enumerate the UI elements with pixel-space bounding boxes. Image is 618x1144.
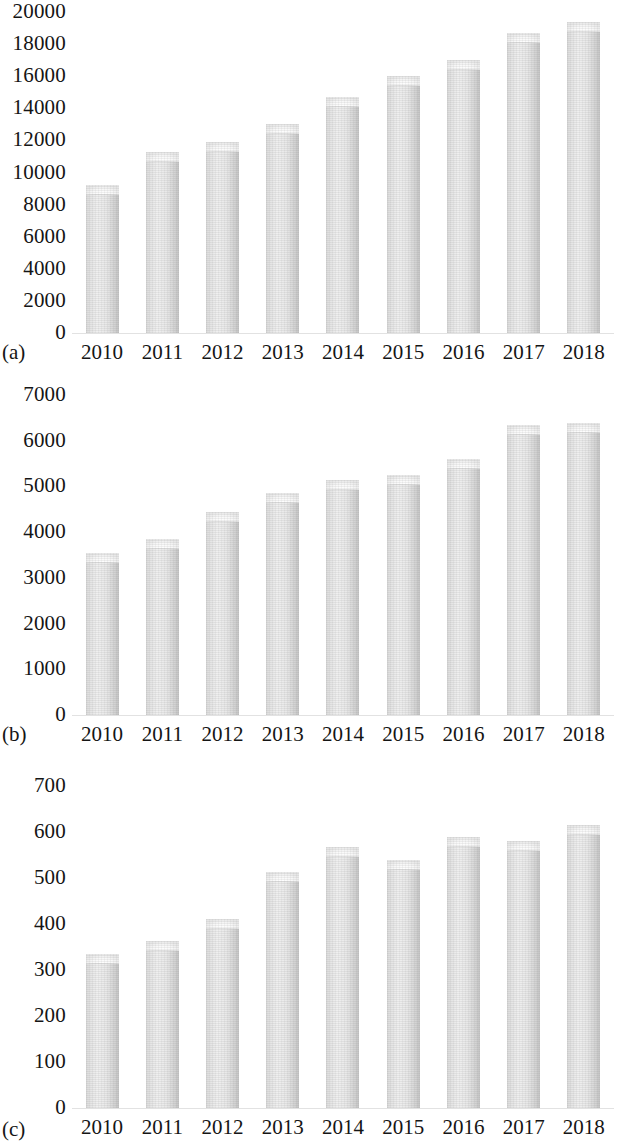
y-tick-label: 5000 (23, 475, 66, 496)
x-tick-label: 2017 (494, 341, 554, 364)
x-tick-label: 2010 (72, 723, 132, 746)
bar-slot (313, 395, 373, 715)
y-tick-label: 4000 (23, 258, 66, 279)
bar (507, 33, 540, 333)
x-axis-labels-c: 201020112012201320142015201620172018 (72, 1116, 614, 1139)
x-axis-line-a (72, 333, 614, 334)
x-tick-label: 2016 (433, 1116, 493, 1139)
bar (507, 841, 540, 1108)
x-tick-label: 2013 (253, 723, 313, 746)
bar (326, 480, 359, 715)
plot-area-b: 01000200030004000500060007000 2010201120… (0, 372, 618, 756)
bar (387, 860, 420, 1108)
bar-slot (554, 786, 614, 1108)
x-tick-label: 2014 (313, 341, 373, 364)
y-tick-label: 2000 (23, 613, 66, 634)
x-tick-label: 2017 (494, 723, 554, 746)
bar-slot (373, 12, 433, 333)
y-tick-label: 18000 (13, 33, 67, 54)
y-tick-label: 500 (34, 867, 66, 888)
bar-slot (494, 395, 554, 715)
y-tick-label: 4000 (23, 521, 66, 542)
y-tick-label: 400 (34, 913, 66, 934)
x-tick-label: 2015 (373, 1116, 433, 1139)
bar-slot (132, 12, 192, 333)
x-tick-label: 2016 (433, 341, 493, 364)
x-tick-label: 2014 (313, 723, 373, 746)
panel-tag-c: (c) (2, 1118, 25, 1141)
bar-slot (494, 786, 554, 1108)
chart-panel-a: 0200040006000800010000120001400016000180… (0, 0, 618, 372)
x-tick-label: 2016 (433, 723, 493, 746)
bar-group-b (72, 395, 614, 715)
bar-slot (72, 786, 132, 1108)
bar-slot (253, 395, 313, 715)
bar (146, 152, 179, 333)
x-tick-label: 2011 (132, 723, 192, 746)
bar (86, 553, 119, 715)
bar (266, 493, 299, 715)
chart-panel-b: 01000200030004000500060007000 2010201120… (0, 372, 618, 756)
figure-three-bar-charts: 0200040006000800010000120001400016000180… (0, 0, 618, 1144)
bar-slot (433, 12, 493, 333)
y-axis-labels-a: 0200040006000800010000120001400016000180… (0, 0, 66, 372)
bar-slot (373, 786, 433, 1108)
x-axis-line-c (72, 1108, 614, 1109)
y-tick-label: 6000 (23, 226, 66, 247)
bar (86, 185, 119, 333)
x-tick-label: 2010 (72, 1116, 132, 1139)
y-tick-label: 600 (34, 821, 66, 842)
y-tick-label: 8000 (23, 194, 66, 215)
bar-slot (313, 786, 373, 1108)
x-axis-labels-a: 201020112012201320142015201620172018 (72, 341, 614, 364)
x-tick-label: 2013 (253, 341, 313, 364)
y-tick-label: 200 (34, 1005, 66, 1026)
plot-area-c: 0100200300400500600700 20102011201220132… (0, 756, 618, 1144)
bar (447, 459, 480, 715)
bar (266, 124, 299, 333)
y-axis-labels-b: 01000200030004000500060007000 (0, 372, 66, 756)
bar (387, 475, 420, 715)
y-tick-label: 7000 (23, 384, 66, 405)
x-tick-label: 2017 (494, 1116, 554, 1139)
x-tick-label: 2015 (373, 723, 433, 746)
x-tick-label: 2010 (72, 341, 132, 364)
x-tick-label: 2011 (132, 341, 192, 364)
y-tick-label: 1000 (23, 658, 66, 679)
bar-slot (253, 12, 313, 333)
bar-slot (554, 12, 614, 333)
bar-group-c (72, 786, 614, 1108)
y-tick-label: 0 (55, 704, 66, 725)
bar-slot (192, 395, 252, 715)
bar (447, 60, 480, 333)
panel-tag-b: (b) (2, 723, 27, 746)
y-tick-label: 2000 (23, 290, 66, 311)
bar (326, 847, 359, 1108)
x-tick-label: 2012 (192, 341, 252, 364)
y-tick-label: 300 (34, 959, 66, 980)
bar (266, 872, 299, 1108)
y-tick-label: 14000 (13, 97, 67, 118)
bar (567, 825, 600, 1108)
x-tick-label: 2014 (313, 1116, 373, 1139)
bar (86, 954, 119, 1108)
plot-area-a: 0200040006000800010000120001400016000180… (0, 0, 618, 372)
y-axis-labels-c: 0100200300400500600700 (0, 756, 66, 1144)
bar-group-a (72, 12, 614, 333)
x-tick-label: 2012 (192, 723, 252, 746)
bar (206, 142, 239, 333)
bar (567, 22, 600, 333)
x-tick-label: 2012 (192, 1116, 252, 1139)
x-tick-label: 2018 (554, 341, 614, 364)
x-tick-label: 2013 (253, 1116, 313, 1139)
bar (206, 919, 239, 1108)
x-axis-labels-b: 201020112012201320142015201620172018 (72, 723, 614, 746)
y-tick-label: 0 (55, 1097, 66, 1118)
x-tick-label: 2018 (554, 723, 614, 746)
bar-slot (253, 786, 313, 1108)
y-tick-label: 16000 (13, 65, 67, 86)
y-tick-label: 20000 (13, 1, 67, 22)
y-tick-label: 10000 (13, 162, 67, 183)
panel-tag-a: (a) (2, 341, 25, 364)
bar-slot (192, 786, 252, 1108)
